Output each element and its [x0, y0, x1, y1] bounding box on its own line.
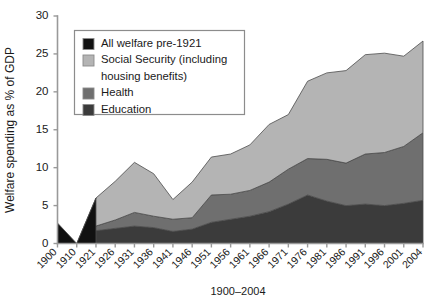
y-tick-label: 10: [36, 161, 49, 173]
x-tick-label: 1966: [246, 245, 271, 270]
legend-swatch: [83, 39, 94, 50]
x-tick-label: 1991: [342, 245, 367, 270]
y-tick-label: 25: [36, 47, 49, 59]
x-tick-label: 1961: [226, 245, 251, 270]
area-series-allwelfarepre1921: [58, 198, 96, 244]
chart-legend: All welfare pre-1921Social Security (inc…: [75, 31, 245, 116]
legend-label: Social Security (including: [101, 53, 227, 65]
legend-swatch: [83, 55, 94, 66]
x-tick-label: 1946: [169, 245, 194, 270]
x-tick-label: 1996: [361, 245, 386, 270]
y-tick-label: 5: [42, 199, 48, 211]
x-tick-label: 1951: [188, 245, 213, 270]
chart-figure: 051015202530 190019101921192619311936194…: [0, 0, 438, 306]
y-tick-label: 20: [36, 85, 49, 97]
x-axis-title: 1900–2004: [210, 285, 265, 297]
x-tick-label: 1941: [149, 245, 174, 270]
x-tick-label: 1926: [92, 245, 117, 270]
y-axis-title: Welfare spending as % of GDP: [3, 47, 17, 213]
x-tick-label: 1981: [303, 245, 328, 270]
y-tick-label: 30: [36, 9, 49, 21]
x-tick-label: 1900: [34, 245, 59, 270]
x-tick-label: 1931: [111, 245, 136, 270]
legend-label: All welfare pre-1921: [101, 37, 201, 49]
legend-swatch: [83, 105, 94, 116]
x-tick-label: 1976: [284, 245, 309, 270]
y-axis-ticks: 051015202530: [36, 9, 58, 249]
x-tick-label: 1910: [53, 245, 78, 270]
x-tick-label: 1956: [207, 245, 232, 270]
x-tick-label: 1986: [322, 245, 347, 270]
x-tick-label: 2004: [399, 245, 424, 270]
x-tick-label: 1921: [72, 245, 97, 270]
stacked-area-chart: 051015202530 190019101921192619311936194…: [0, 0, 438, 306]
y-tick-label: 0: [42, 237, 48, 249]
legend-label: Education: [101, 103, 151, 115]
x-tick-label: 1936: [130, 245, 155, 270]
y-tick-label: 15: [36, 123, 49, 135]
legend-label: housing benefits): [101, 70, 187, 82]
x-axis-ticks: 1900191019211926193119361941194619511956…: [34, 244, 425, 271]
x-tick-label: 2001: [380, 245, 405, 270]
legend-swatch: [83, 88, 94, 99]
x-tick-label: 1971: [265, 245, 290, 270]
legend-label: Health: [101, 86, 134, 98]
